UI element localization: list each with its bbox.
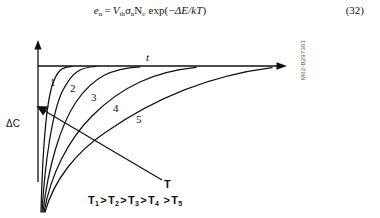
legend-operator-2: > <box>119 194 128 206</box>
equation-kt: kT <box>191 4 202 16</box>
equation-expression: en=VthσnNc exp(−ΔE/kT) <box>0 4 300 18</box>
legend-operator-3: > <box>139 194 148 206</box>
temperature-arrow <box>37 106 163 180</box>
curve-label-2: 2 <box>70 82 76 94</box>
legend-term-4: T4 <box>148 194 159 206</box>
equation-row: en=VthσnNc exp(−ΔE/kT) (32) <box>0 4 380 24</box>
equation-term-sigma-n: σn <box>125 4 134 16</box>
curve-label-1: 1 <box>50 76 56 88</box>
curve-label-4: 4 <box>113 102 119 114</box>
decay-curve-3 <box>43 67 140 212</box>
temperature-ordering-legend: T1>T2>T3>T4 >T5 <box>88 194 182 207</box>
decay-curve-group <box>41 66 272 212</box>
x-axis <box>38 62 287 70</box>
decay-curves-figure: t ΔC T 1 2 3 4 5 T1>T2>T3>T4 >T5 M62-B29… <box>0 34 380 218</box>
legend-term-3: T3 <box>128 194 139 206</box>
equation-equals: = <box>102 4 112 16</box>
x-axis-label: t <box>146 51 149 63</box>
legend-operator-4: > <box>163 194 172 206</box>
plot-canvas <box>0 34 380 218</box>
decay-curve-5 <box>45 68 272 212</box>
decay-curve-4 <box>44 67 196 212</box>
figure-id-stamp: M62-B297301 <box>300 40 306 80</box>
equation-delta-e: ΔE <box>175 4 188 16</box>
equation-exp-open: exp( <box>148 4 168 16</box>
curve-label-5: 5 <box>136 113 142 125</box>
equation-number: (32) <box>346 4 364 16</box>
temperature-arrow-label: T <box>164 178 171 190</box>
legend-term-1: T1 <box>88 194 99 206</box>
figure-page: en=VthσnNc exp(−ΔE/kT) (32) <box>0 0 380 218</box>
equation-term-vth: Vth <box>113 4 125 16</box>
equation-term-nc: Nc <box>134 4 145 16</box>
legend-term-5: T5 <box>171 194 182 206</box>
curve-label-3: 3 <box>91 91 97 103</box>
y-axis-label: ΔC <box>6 118 20 129</box>
legend-operator-1: > <box>99 194 108 206</box>
legend-term-2: T2 <box>108 194 119 206</box>
equation-close-paren: ) <box>202 4 206 16</box>
